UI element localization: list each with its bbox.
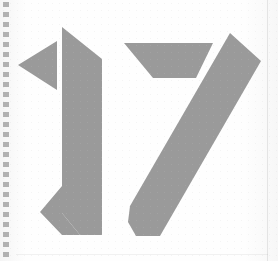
numeral-artwork-svg — [0, 0, 278, 261]
scanned-page: 17 — [0, 0, 278, 261]
seven-crossbar — [124, 43, 213, 78]
one-stem — [62, 27, 102, 235]
one-flag-triangle — [18, 41, 57, 90]
numeral-glyph-group — [18, 27, 261, 236]
large-numeral-17 — [0, 0, 278, 261]
numeral-seven — [124, 33, 261, 236]
numeral-one — [18, 27, 102, 235]
